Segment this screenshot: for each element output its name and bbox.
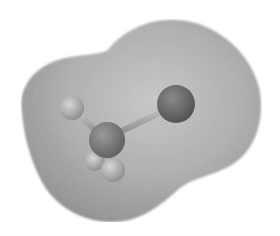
- central-atom: [89, 122, 125, 158]
- molecule-figure: [0, 0, 280, 236]
- small-atom-lower-front: [101, 158, 125, 182]
- large-atom-right: [157, 85, 195, 123]
- small-atom-upper-left: [60, 96, 84, 120]
